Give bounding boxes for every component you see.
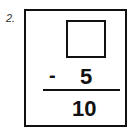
answer-blank-box[interactable] xyxy=(66,20,106,58)
problem-number: 2. xyxy=(6,12,15,24)
minus-sign: - xyxy=(49,64,56,87)
subtrahend: 5 xyxy=(80,64,92,90)
sum-line xyxy=(43,89,120,91)
difference: 10 xyxy=(72,96,96,122)
